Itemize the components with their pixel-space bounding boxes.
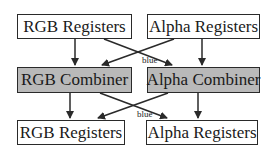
- bottom-rgb-registers-box: RGB Registers: [17, 120, 125, 145]
- top-rgb-registers-box: RGB Registers: [17, 14, 132, 39]
- rgb-combiner-box: RGB Combiner: [17, 67, 132, 93]
- bottom-alpha-registers-box: Alpha Registers: [146, 120, 258, 145]
- alpha-combiner-box: Alpha Combiner: [147, 67, 260, 93]
- alpha-combiner-label: Alpha Combiner: [147, 70, 261, 90]
- top-alpha-registers-label: Alpha Registers: [149, 17, 258, 37]
- top-alpha-registers-box: Alpha Registers: [147, 14, 260, 39]
- bottom-alpha-registers-label: Alpha Registers: [147, 123, 256, 143]
- lower-cross-label: blue: [137, 109, 153, 119]
- rgb-combiner-label: RGB Combiner: [21, 70, 128, 90]
- top-rgb-registers-label: RGB Registers: [23, 17, 125, 37]
- bottom-rgb-registers-label: RGB Registers: [20, 123, 122, 143]
- upper-cross-label: blue: [142, 55, 158, 65]
